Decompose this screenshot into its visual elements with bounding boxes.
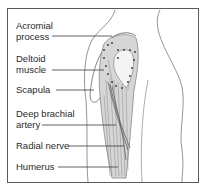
label-deep-brachial-artery: Deep brachial artery [16, 108, 75, 130]
arm-outline-inner [141, 80, 148, 182]
label-radial-nerve: Radial nerve [16, 140, 69, 151]
label-line: Scapula [16, 84, 50, 95]
label-line: process [16, 31, 53, 42]
label-line: Deep brachial [16, 108, 75, 119]
label-scapula: Scapula [16, 84, 50, 95]
label-line: muscle [16, 64, 46, 75]
label-line: artery [16, 119, 75, 130]
label-line: Deltoid [16, 53, 46, 64]
label-acromial-process: Acromial process [16, 20, 53, 42]
label-deltoid-muscle: Deltoid muscle [16, 53, 46, 75]
label-humerus: Humerus [16, 161, 55, 172]
label-line: Radial nerve [16, 140, 69, 151]
label-line: Acromial [16, 20, 53, 31]
torso-outline [157, 10, 183, 182]
label-line: Humerus [16, 161, 55, 172]
